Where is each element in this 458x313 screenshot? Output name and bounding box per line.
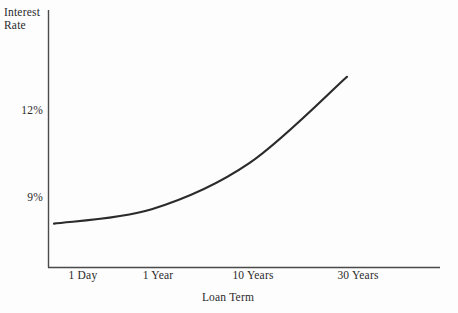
chart-plot-area — [0, 0, 458, 313]
y-axis-title: Interest Rate — [4, 6, 40, 32]
y-axis-title-line-2: Rate — [4, 19, 40, 32]
yield-curve-line — [54, 77, 347, 224]
y-tick-label-9pct: 9% — [3, 191, 43, 204]
x-axis-title: Loan Term — [188, 291, 268, 304]
x-tick-label-30-years: 30 Years — [318, 269, 398, 282]
y-axis-title-line-1: Interest — [4, 6, 40, 19]
y-tick-label-12pct: 12% — [3, 104, 43, 117]
x-tick-label-10-years: 10 Years — [213, 269, 293, 282]
x-tick-label-1-day: 1 Day — [43, 269, 123, 282]
interest-rate-chart: Interest Rate 12% 9% 1 Day 1 Year 10 Yea… — [0, 0, 458, 313]
x-tick-label-1-year: 1 Year — [118, 269, 198, 282]
